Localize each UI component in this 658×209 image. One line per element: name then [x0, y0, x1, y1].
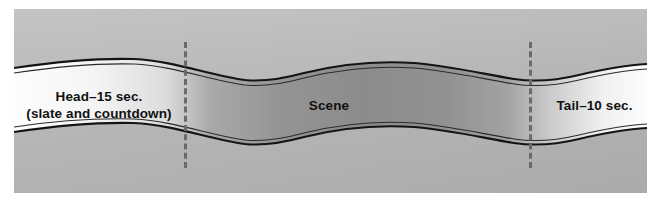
- figure-canvas: Head–15 sec. (slate and countdown) Scene…: [0, 0, 658, 209]
- divider-tail: [529, 42, 532, 168]
- divider-head: [184, 42, 187, 168]
- label-tail-line1: Tail–10 sec.: [542, 97, 647, 114]
- label-head-line2: (slate and countdown): [14, 105, 184, 122]
- label-head-line1: Head–15 sec.: [14, 88, 184, 105]
- diagram-panel: Head–15 sec. (slate and countdown) Scene…: [14, 9, 647, 193]
- label-tail: Tail–10 sec.: [542, 97, 647, 114]
- label-scene: Scene: [269, 97, 389, 114]
- label-scene-line1: Scene: [269, 97, 389, 114]
- label-head: Head–15 sec. (slate and countdown): [14, 88, 184, 122]
